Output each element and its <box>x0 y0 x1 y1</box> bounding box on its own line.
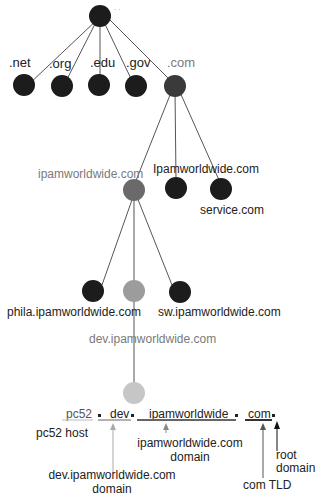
ipam-edges <box>102 197 172 287</box>
node-sw <box>169 281 191 303</box>
arrow-tld-icon <box>260 423 266 430</box>
tld-node-org <box>51 75 73 97</box>
tld-label-edu: .edu <box>90 55 115 70</box>
fqdn-row: pc52 dev ipamworldwide com <box>62 407 275 421</box>
annotation-dev-line2: domain <box>92 482 131 496</box>
label-sw: sw.ipamworldwide.com <box>158 305 281 319</box>
tld-node-gov <box>125 75 147 97</box>
dot-3 <box>235 414 238 417</box>
tld-node-com <box>164 75 186 97</box>
annotation-root-line1: root <box>276 448 297 462</box>
node-ipamworldwide-alt <box>165 177 187 199</box>
tld-label-com: .com <box>167 55 195 70</box>
tld-label-gov: .gov <box>126 55 151 70</box>
arrow-root-icon <box>274 421 280 429</box>
root-node <box>89 5 111 27</box>
root-dots: · · <box>114 6 121 13</box>
dns-tree-diagram: · · .net .org .edu .gov .com ipamworldwi… <box>0 0 325 499</box>
tld-label-net: .net <box>9 55 31 70</box>
label-dev: dev.ipamworldwide.com <box>89 332 216 346</box>
annotation-host: pc52 host <box>36 426 89 440</box>
annotation-ipam-line1: ipamworldwide.com <box>137 436 242 450</box>
label-ipamworldwide: ipamworldwide.com <box>38 167 143 181</box>
dot-2 <box>131 414 134 417</box>
annotation-ipam-line2: domain <box>170 450 209 464</box>
fqdn-dev: dev <box>110 407 129 421</box>
fqdn-host: pc52 <box>66 407 92 421</box>
node-pc52 <box>123 382 145 404</box>
annotation-root-line2: domain <box>276 461 315 475</box>
node-dev <box>123 280 145 302</box>
arrow-dev-icon <box>110 423 116 430</box>
dot-4 <box>272 414 275 417</box>
node-phila <box>82 280 104 302</box>
tld-label-org: .org <box>49 56 71 71</box>
label-phila: phila.ipamworldwide.com <box>7 305 141 319</box>
fqdn-tld: com <box>248 407 271 421</box>
tld-node-edu <box>88 74 110 96</box>
annotation-dev-line1: dev.ipamworldwide.com <box>48 468 175 482</box>
fqdn-domain: ipamworldwide <box>149 407 229 421</box>
label-ipamworldwide-alt: Ipamworldwide.com <box>153 162 259 176</box>
arrow-ipam-icon <box>163 423 169 430</box>
node-service <box>210 178 232 200</box>
tld-node-net <box>13 74 35 96</box>
dot-1 <box>98 414 101 417</box>
label-service: service.com <box>200 203 264 217</box>
node-ipamworldwide <box>123 179 145 201</box>
annotation-tld: com TLD <box>243 478 292 492</box>
